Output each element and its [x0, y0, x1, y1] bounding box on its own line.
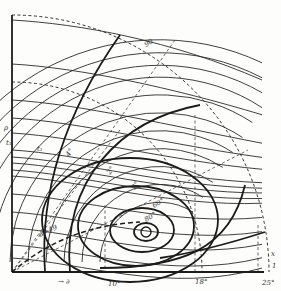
diagram-label: 25° [261, 279, 274, 287]
horizontal-axis-arrow-label: → ∂ [58, 278, 70, 286]
thick-contour-curves [12, 35, 265, 282]
inner-boundary-arc [12, 82, 202, 272]
polar-contour-diagram: 90t₁t₁4°2°3°60°80°α=4910°18°25°x1ρ→ ∂ [0, 0, 281, 291]
diagram-label: t₁ [37, 145, 43, 153]
diagram-label: 90 [143, 37, 155, 49]
diagram-label: 60° [151, 197, 166, 210]
field-curve [12, 245, 262, 266]
contour-ellipse [42, 158, 218, 282]
diagram-label: 2° [105, 165, 117, 177]
field-curve [12, 64, 262, 115]
diagram-label: 1 [272, 262, 276, 270]
field-curve [12, 20, 262, 80]
diagram-canvas: 90t₁t₁4°2°3°60°80°α=4910°18°25°x1ρ→ ∂ [0, 0, 281, 291]
field-curve [12, 258, 262, 278]
diagram-label: t₁ [6, 139, 12, 147]
thick-curve-left [44, 35, 120, 272]
diagram-label: x [271, 250, 275, 258]
diagram-label: 10° [108, 280, 120, 288]
vertical-axis-label: ρ [3, 124, 9, 132]
center-circle [141, 227, 151, 237]
field-curve [12, 150, 262, 183]
diagram-label: α=49 [37, 223, 59, 239]
diagram-label: 18° [195, 278, 207, 286]
horizontal-field-curves [12, 20, 262, 278]
